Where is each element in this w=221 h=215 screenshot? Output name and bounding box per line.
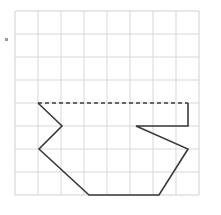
figure-container xyxy=(0,0,221,215)
margin-mark-layer xyxy=(5,38,8,41)
margin-bullet-icon xyxy=(5,38,8,41)
grid-figure xyxy=(0,0,221,215)
